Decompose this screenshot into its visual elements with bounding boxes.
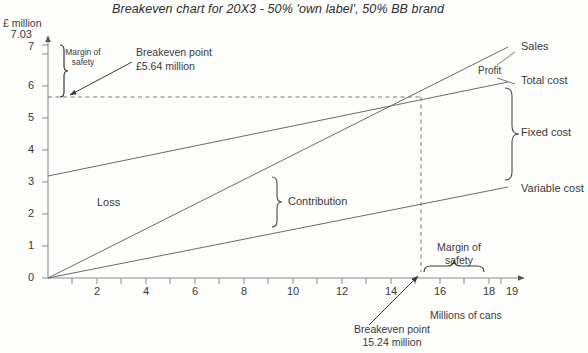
margin-of-safety-value-label-line2: safety [57,58,109,67]
breakeven-value-label-line2: £5.64 million [136,61,195,73]
x-tick-label-12: 12 [330,285,354,297]
series-label-variable-cost: Variable cost [521,182,584,194]
fixed-cost-brace [505,88,519,180]
y-tick-label-7-03: 7.03 [0,28,32,40]
y-axis-ticks [42,45,48,278]
breakeven-volume-leader-line [369,276,418,325]
y-tick-label-6: 6 [0,79,34,91]
y-tick-label-5: 5 [0,111,34,123]
series-label-fixed-cost: Fixed cost [521,126,571,138]
x-tick-label-19: 19 [500,285,524,297]
x-axis-title: Millions of cans [430,310,502,322]
y-tick-label-1: 1 [0,239,34,251]
x-tick-label-16: 16 [428,285,452,297]
series-label-total-cost: Total cost [521,74,567,86]
x-axis-ticks [72,278,501,284]
y-tick-label-3: 3 [0,175,34,187]
breakeven-volume-label-line1: Breakeven point [337,324,447,336]
x-tick-label-14: 14 [379,285,403,297]
series-label-profit: Profit [478,65,501,76]
breakeven-chart: Breakeven chart for 20X3 - 50% 'own labe… [0,0,588,353]
total-cost-line [48,82,508,176]
profit-leader-line-sales [497,52,515,65]
profit-leader-line-total [497,78,515,84]
x-tick-label-6: 6 [183,285,207,297]
region-label-contribution: Contribution [288,195,347,207]
margin-of-safety-value-label-line1: Margin of [57,48,109,57]
breakeven-volume-label-line2: 15.24 million [337,337,447,349]
x-tick-label-4: 4 [134,285,158,297]
x-tick-label-18: 18 [477,285,501,297]
y-tick-label-2: 2 [0,207,34,219]
chart-title: Breakeven chart for 20X3 - 50% 'own labe… [112,2,444,16]
y-tick-label-7: 7 [0,40,34,52]
x-tick-label-8: 8 [232,285,256,297]
x-tick-label-2: 2 [85,285,109,297]
x-tick-label-10: 10 [281,285,305,297]
series-label-sales: Sales [521,40,549,52]
y-tick-label-0: 0 [0,271,34,283]
breakeven-value-label-line1: Breakeven point [136,47,212,59]
margin-of-safety-volume-label-line1: Margin of [424,242,494,254]
contribution-brace [272,177,282,227]
region-label-loss: Loss [97,196,120,208]
y-tick-label-4: 4 [0,143,34,155]
margin-of-safety-volume-label-line2: safety [424,255,494,267]
